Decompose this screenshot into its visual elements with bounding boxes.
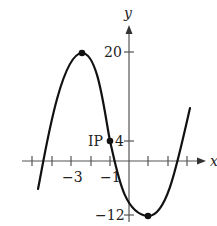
y-tick-label-4: 4 [115, 133, 124, 149]
local-min-point [145, 213, 152, 220]
y-axis-label: y [123, 5, 133, 21]
inflection-point-label: IP [88, 133, 103, 149]
x-axis-label: x [210, 153, 217, 169]
function-graph: x −3 −1 y 20 4 −12 IP [0, 0, 217, 226]
y-axis-arrow-icon [126, 25, 133, 34]
y-tick-label-20: 20 [104, 44, 122, 60]
x-axis-arrow-icon [197, 158, 206, 165]
inflection-point [107, 138, 114, 145]
cubic-curve [38, 53, 190, 216]
y-tick-label-neg12: −12 [95, 207, 125, 223]
x-tick-label-neg3: −3 [62, 169, 83, 185]
local-max-point [79, 50, 86, 57]
y-axis: y 20 4 −12 [95, 5, 134, 223]
